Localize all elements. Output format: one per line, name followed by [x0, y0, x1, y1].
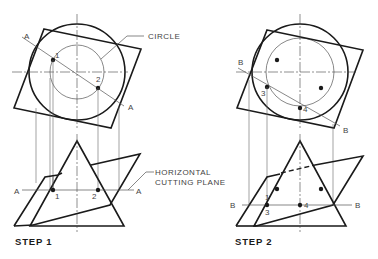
label-point-2-front: 2 — [92, 192, 97, 201]
point-1-previous — [275, 58, 279, 62]
label-point-4-front: 4 — [304, 201, 309, 210]
step1-group: A A 1 2 CIRCLE A A — [12, 14, 226, 247]
point-4-front — [298, 203, 302, 207]
label-point-2: 2 — [96, 75, 101, 84]
diagram-canvas: A A 1 2 CIRCLE A A — [0, 0, 378, 259]
step1-projection-lines — [36, 60, 119, 190]
step2-front-view: B B 1 3 4 — [230, 134, 363, 232]
label-horizontal: HORIZONTAL — [155, 168, 211, 177]
label-a-top-right: A — [128, 103, 134, 112]
point-2-front — [319, 187, 323, 191]
label-point-1-front: 1 — [265, 193, 270, 202]
plane-edge-right — [33, 154, 140, 225]
label-b-front-left: B — [230, 201, 236, 210]
label-cutting-plane: CUTTING PLANE — [155, 178, 226, 187]
label-point-3-front: 3 — [265, 208, 270, 217]
label-b-top-left: B — [238, 58, 244, 67]
label-circle: CIRCLE — [148, 32, 180, 41]
cutting-plane-a-edge — [22, 37, 124, 106]
point-3-front — [265, 203, 269, 207]
point-4 — [298, 106, 302, 110]
step2-caption: STEP 2 — [235, 236, 272, 247]
label-a-front-left: A — [14, 187, 20, 196]
step1-top-view: A A 1 2 CIRCLE — [12, 14, 180, 128]
step2-top-view: B B 3 4 — [236, 14, 363, 135]
step1-front-view: A A 1 2 HORIZONTAL CUTTING PLANE — [14, 134, 226, 232]
label-point-3: 3 — [261, 89, 266, 98]
label-a-top-left: A — [24, 32, 30, 41]
label-point-1: 1 — [55, 51, 60, 60]
label-b-front-right: B — [355, 201, 361, 210]
oblique-plane-top — [14, 29, 141, 128]
label-b-top-right: B — [343, 126, 349, 135]
point-2-previous — [319, 86, 323, 90]
label-a-front-right: A — [136, 187, 142, 196]
label-point-1-front: 1 — [55, 192, 60, 201]
step2-group: B B 3 4 B B 1 3 4 — [230, 14, 363, 247]
cutting-plane-b-edge — [238, 68, 340, 126]
label-point-4: 4 — [303, 105, 308, 114]
step1-caption: STEP 1 — [15, 236, 52, 247]
point-1-front — [275, 187, 279, 191]
